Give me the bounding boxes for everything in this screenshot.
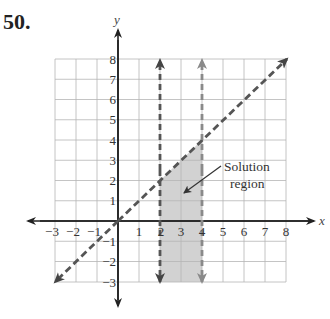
y-tick-5: 5: [110, 112, 117, 127]
y-tick-3: 3: [110, 153, 117, 168]
y-tick-labels: 8 7 6 5 4 3 2 1 −1 −2 −3: [102, 52, 116, 290]
x-tick-6: 6: [241, 224, 248, 239]
x-tick--3: −3: [45, 224, 59, 239]
y-tick-6: 6: [110, 92, 117, 107]
y-tick--2: −2: [102, 254, 116, 269]
coordinate-graph: x y −3 −2 −1 1 2 3 4 5 6 7 8 8 7 6 5 4 3…: [0, 0, 330, 319]
x-tick-3: 3: [178, 224, 185, 239]
annotation-line-2: region: [230, 176, 265, 191]
x-tick--2: −2: [66, 224, 80, 239]
x-tick-7: 7: [262, 224, 269, 239]
x-tick-2: 2: [158, 224, 165, 239]
annotation-line-1: Solution: [224, 159, 270, 174]
x-tick-8: 8: [283, 224, 290, 239]
y-tick-7: 7: [110, 72, 117, 87]
x-tick-5: 5: [220, 224, 227, 239]
y-tick-8: 8: [110, 52, 117, 67]
x-tick--1: −1: [87, 224, 101, 239]
y-tick-4: 4: [110, 133, 117, 148]
y-tick--3: −3: [102, 275, 116, 290]
y-tick-1: 1: [110, 193, 117, 208]
y-tick-2: 2: [110, 173, 117, 188]
x-tick-4: 4: [199, 224, 206, 239]
y-tick--1: −1: [102, 234, 116, 249]
y-axis-label: y: [112, 12, 120, 27]
x-tick-1: 1: [136, 224, 143, 239]
x-axis-label: x: [318, 213, 325, 228]
